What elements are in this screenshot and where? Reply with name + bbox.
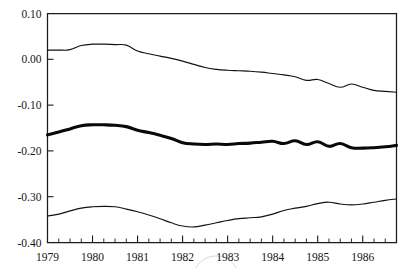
line-chart: 0.100.00-0.10-0.20-0.30-0.40 19791980198… xyxy=(0,0,411,277)
plot-axes xyxy=(48,14,397,243)
x-tick-label: 1980 xyxy=(81,251,104,263)
y-tick-label: -0.30 xyxy=(18,191,42,203)
y-tick-label: 0.10 xyxy=(21,8,41,20)
chart-container: 0.100.00-0.10-0.20-0.30-0.40 19791980198… xyxy=(0,0,411,277)
y-tick-label: 0.00 xyxy=(21,53,41,65)
y-tick-label: -0.40 xyxy=(18,237,42,249)
y-tick-label: -0.20 xyxy=(18,145,42,157)
x-axis-tick-labels: 19791980198119821983198419851986 xyxy=(36,251,374,263)
x-tick-label: 1986 xyxy=(351,251,374,263)
y-axis-ticks xyxy=(48,59,54,196)
x-tick-label: 1984 xyxy=(261,251,284,263)
series-line-lower-band xyxy=(48,199,397,227)
x-tick-label: 1979 xyxy=(36,251,59,263)
x-tick-label: 1982 xyxy=(171,251,194,263)
y-tick-label: -0.10 xyxy=(18,99,42,111)
plot-frame xyxy=(48,14,397,243)
x-tick-label: 1983 xyxy=(216,251,239,263)
series-line-upper-band xyxy=(48,44,397,92)
x-tick-label: 1985 xyxy=(306,251,329,263)
x-axis-ticks xyxy=(59,236,385,243)
series-layer xyxy=(48,44,397,227)
series-line-central-estimate xyxy=(48,125,397,149)
x-tick-label: 1981 xyxy=(126,251,149,263)
y-axis-tick-labels: 0.100.00-0.10-0.20-0.30-0.40 xyxy=(18,8,42,249)
